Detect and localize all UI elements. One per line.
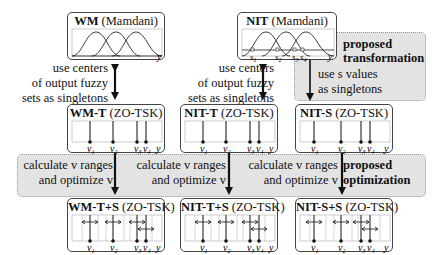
arrows-layer <box>0 0 439 255</box>
